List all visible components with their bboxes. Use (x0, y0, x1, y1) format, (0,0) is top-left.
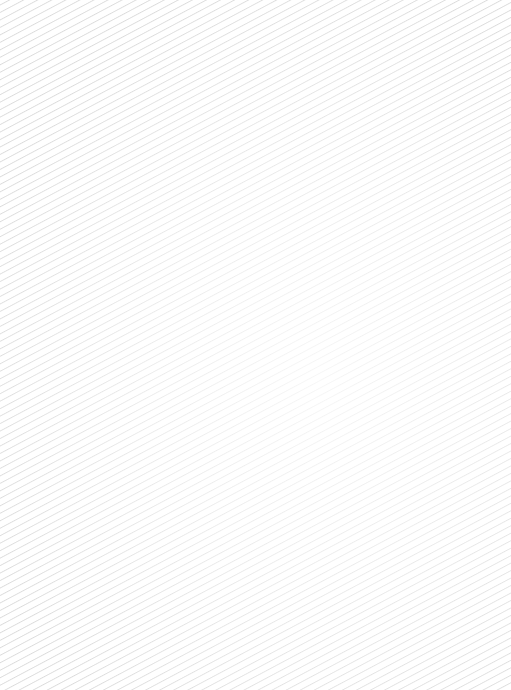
blank-textured-background (0, 0, 511, 690)
center-fade-overlay (0, 0, 511, 690)
